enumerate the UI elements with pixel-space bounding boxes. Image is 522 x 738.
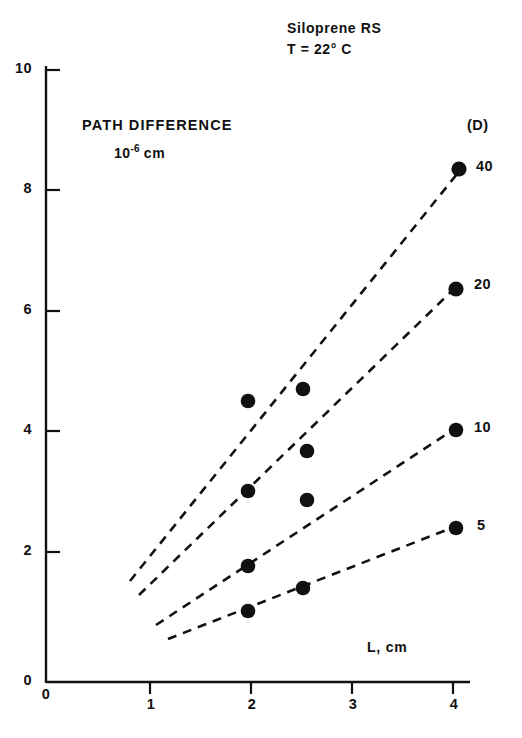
axis-lines bbox=[46, 66, 470, 683]
series-label-40: 40 bbox=[476, 158, 493, 174]
trend-line-series-40 bbox=[130, 169, 461, 581]
series-label-20: 20 bbox=[474, 276, 491, 292]
data-point bbox=[449, 423, 464, 438]
y-tick-label-4: 4 bbox=[0, 421, 32, 437]
y-axis-units-base: 10 bbox=[114, 145, 131, 161]
x-tick-label-4: 4 bbox=[443, 696, 465, 712]
data-points bbox=[241, 161, 467, 618]
y-axis-ticks bbox=[46, 70, 60, 552]
y-axis-units-suffix: cm bbox=[139, 145, 165, 161]
data-point bbox=[451, 161, 466, 176]
data-point bbox=[449, 521, 464, 536]
data-point bbox=[241, 559, 256, 574]
trend-lines bbox=[130, 169, 461, 639]
trend-line-series-5 bbox=[168, 525, 459, 639]
x-tick-label-3: 3 bbox=[342, 696, 364, 712]
series-label-10: 10 bbox=[474, 419, 491, 435]
series-label-5: 5 bbox=[477, 517, 486, 533]
y-axis-units-label: 10-6 cm bbox=[114, 143, 165, 161]
y-tick-label-8: 8 bbox=[0, 180, 32, 196]
chart-plot-area bbox=[0, 0, 522, 738]
y-tick-label-10: 10 bbox=[0, 60, 32, 76]
data-point bbox=[241, 484, 256, 499]
chart-title-line-2: T = 22° C bbox=[287, 41, 352, 57]
data-point bbox=[296, 581, 311, 596]
x-axis-ticks bbox=[150, 682, 453, 694]
data-point bbox=[296, 382, 311, 397]
x-tick-label-0: 0 bbox=[35, 686, 57, 702]
data-point bbox=[300, 444, 315, 459]
data-point bbox=[300, 493, 315, 508]
data-point bbox=[241, 394, 256, 409]
chart-title-line-1: Siloprene RS bbox=[287, 20, 381, 36]
data-point bbox=[241, 604, 256, 619]
data-point bbox=[448, 281, 463, 296]
legend-header: (D) bbox=[467, 117, 489, 133]
y-tick-label-2: 2 bbox=[0, 542, 32, 558]
x-tick-label-1: 1 bbox=[140, 696, 162, 712]
figure-canvas: Siloprene RS T = 22° C PATH DIFFERENCE 1… bbox=[0, 0, 522, 738]
trend-line-series-20 bbox=[139, 284, 459, 595]
x-tick-label-2: 2 bbox=[241, 696, 263, 712]
y-axis-label: PATH DIFFERENCE bbox=[82, 117, 233, 133]
x-axis-label: L, cm bbox=[367, 639, 408, 655]
y-tick-label-0: 0 bbox=[0, 672, 32, 688]
y-tick-label-6: 6 bbox=[0, 301, 32, 317]
